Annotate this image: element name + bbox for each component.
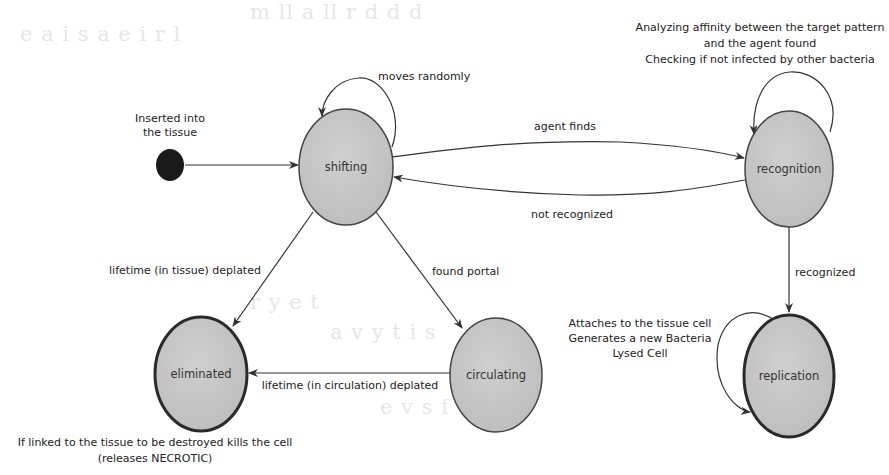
recognition-note-line2: and the agent found (704, 37, 817, 50)
replication-note-line2: Generates a new Bacteria (569, 332, 712, 345)
label-not-recognized: not recognized (531, 208, 613, 221)
label-moves-randomly: moves randomly (378, 70, 471, 83)
label-found-portal: found portal (432, 265, 499, 278)
eliminated-note-line2: (releases NECROTIC) (98, 452, 213, 465)
state-replication: replication (744, 315, 834, 437)
state-shifting-label: shifting (325, 160, 368, 174)
recognition-note-line3: Checking if not infected by other bacter… (645, 53, 875, 66)
initial-label-line1: Inserted into (135, 112, 205, 125)
initial-state-node (156, 149, 184, 181)
replication-note-line1: Attaches to the tissue cell (569, 317, 712, 330)
state-shifting: shifting (299, 109, 393, 225)
label-recognized: recognized (795, 266, 855, 279)
replication-note-line3: Lysed Cell (612, 347, 667, 360)
label-lifetime-tissue: lifetime (in tissue) deplated (109, 264, 261, 277)
state-eliminated-label: eliminated (170, 367, 231, 381)
state-machine-diagram: Inserted into the tissue shifting moves … (0, 0, 889, 475)
edge-agent-finds (392, 142, 744, 158)
initial-label-line2: the tissue (143, 126, 197, 139)
state-eliminated: eliminated (155, 317, 247, 431)
state-recognition-label: recognition (757, 162, 822, 176)
edge-not-recognized (394, 177, 745, 195)
recognition-note-line1: Analyzing affinity between the target pa… (636, 21, 885, 34)
label-lifetime-circulation: lifetime (in circulation) deplated (262, 379, 439, 392)
state-replication-label: replication (759, 369, 820, 383)
state-circulating: circulating (450, 318, 542, 432)
eliminated-note-line1: If linked to the tissue to be destroyed … (18, 436, 293, 449)
state-recognition: recognition (745, 111, 833, 227)
label-agent-finds: agent finds (534, 120, 596, 133)
state-circulating-label: circulating (466, 368, 526, 382)
